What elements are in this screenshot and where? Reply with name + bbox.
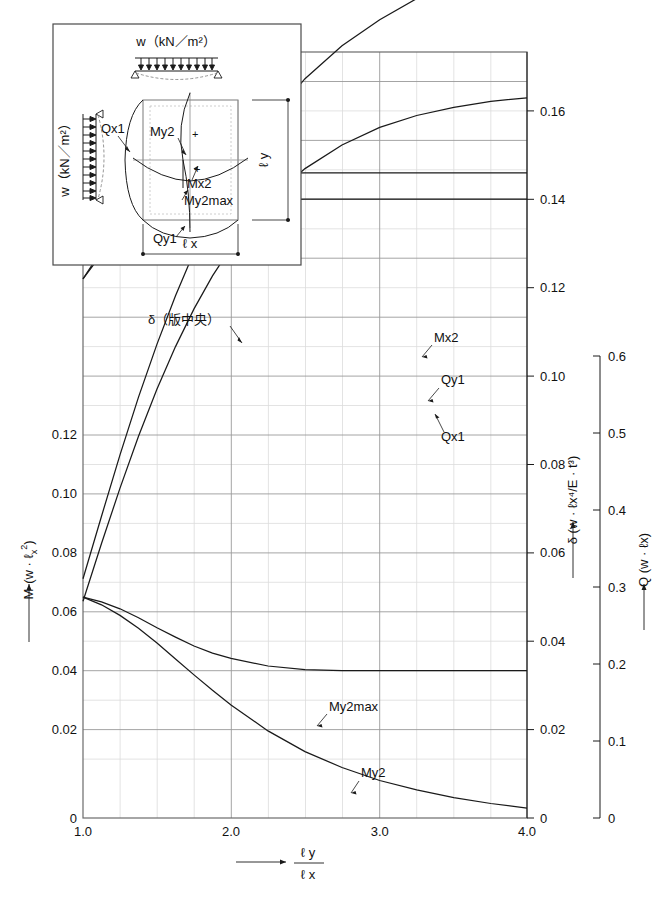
inset-label-qy1: Qy1 — [153, 231, 177, 246]
label-delta: δ（版中央） — [148, 312, 220, 327]
label-mx2: Mx2 — [434, 330, 459, 345]
inset-label-my2: My2 — [150, 124, 175, 139]
delta-tick-0: 0 — [540, 811, 547, 826]
label-my2: My2 — [361, 765, 386, 780]
x-tick-1: 2.0 — [222, 824, 240, 839]
engineering-chart: w（kN／m²） w（kN／m²） — [0, 0, 672, 909]
inset-left-load-label: w（kN／m²） — [57, 117, 72, 197]
y-left-tick-4: 0.08 — [52, 545, 77, 560]
inset-label-mx2: Mx2 — [187, 176, 212, 191]
delta-tick-7: 0.14 — [540, 192, 565, 207]
x-title-denominator: ℓ x — [301, 867, 316, 882]
x-tick-3: 4.0 — [518, 824, 536, 839]
q-tick-1: 0.1 — [608, 734, 626, 749]
x-title-numerator: ℓ y — [301, 845, 316, 860]
delta-axis-title-text: δ (w · ℓx⁴/E · t³) — [565, 456, 580, 545]
q-tick-6: 0.6 — [608, 349, 626, 364]
inset-label-qx1: Qx1 — [101, 121, 125, 136]
label-qx1: Qx1 — [441, 429, 465, 444]
y-left-tick-5: 0.10 — [52, 486, 77, 501]
y-left-title-m: M — [21, 589, 36, 600]
inset-top-load-label: w（kN／m²） — [135, 34, 215, 49]
delta-tick-4: 0.08 — [540, 457, 565, 472]
y-left-tick-3: 0.06 — [52, 604, 77, 619]
inset-diagram: w（kN／m²） w（kN／m²） — [53, 24, 301, 265]
y-left-title-paren: (w · ℓ — [21, 553, 36, 583]
q-axis-title-text: Q (w · ℓx) — [636, 533, 651, 587]
inset-plus-1: + — [192, 128, 198, 140]
delta-tick-5: 0.10 — [540, 369, 565, 384]
y-left-tick-2: 0.04 — [52, 663, 77, 678]
inset-label-lx: ℓ x — [183, 236, 198, 251]
q-tick-5: 0.5 — [608, 426, 626, 441]
q-tick-4: 0.4 — [608, 503, 626, 518]
y-left-tick-6: 0.12 — [52, 427, 77, 442]
delta-tick-8: 0.16 — [540, 104, 565, 119]
inset-label-ly: ℓ y — [256, 152, 271, 167]
q-tick-2: 0.2 — [608, 657, 626, 672]
x-tick-0: 1.0 — [74, 824, 92, 839]
delta-tick-2: 0.04 — [540, 634, 565, 649]
inset-label-my2max: My2max — [184, 193, 234, 208]
delta-tick-1: 0.02 — [540, 722, 565, 737]
delta-tick-6: 0.12 — [540, 280, 565, 295]
y-left-title-close: ) — [21, 540, 36, 544]
label-my2max: My2max — [329, 699, 379, 714]
delta-tick-3: 0.06 — [540, 545, 565, 560]
label-qy1: Qy1 — [441, 372, 465, 387]
q-tick-0: 0 — [608, 811, 615, 826]
figure-root: w（kN／m²） w（kN／m²） — [0, 0, 672, 909]
y-left-title-sub: x — [29, 549, 39, 554]
x-tick-2: 3.0 — [371, 824, 389, 839]
q-tick-3: 0.3 — [608, 580, 626, 595]
y-left-tick-1: 0.02 — [52, 722, 77, 737]
